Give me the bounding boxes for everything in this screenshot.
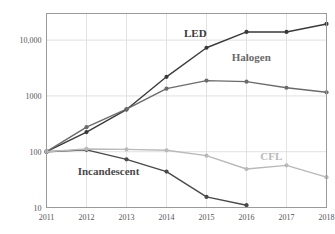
x-tick-label-2016: 2016 bbox=[239, 213, 255, 222]
x-tick-label-2013: 2013 bbox=[119, 213, 135, 222]
x-tick-label-2017: 2017 bbox=[279, 213, 295, 222]
x-tick-label-2014: 2014 bbox=[159, 213, 175, 222]
data-point-led-1 bbox=[84, 130, 88, 134]
data-point-halogen-1 bbox=[84, 125, 88, 129]
series-label-cfl: CFL bbox=[260, 150, 282, 162]
data-point-cfl-2 bbox=[124, 147, 128, 151]
data-point-halogen-3 bbox=[164, 87, 168, 91]
x-tick-label-2015: 2015 bbox=[199, 213, 215, 222]
data-point-halogen-4 bbox=[204, 79, 208, 83]
series-label-incandescent: Incandescent bbox=[78, 165, 140, 177]
plot-frame bbox=[47, 14, 327, 208]
grid-layer bbox=[47, 14, 327, 208]
data-point-cfl-1 bbox=[84, 147, 88, 151]
data-point-led-3 bbox=[164, 75, 168, 79]
series-line-halogen bbox=[47, 81, 327, 152]
line-chart: LEDHalogenIncandescentCFL 10100100010,00… bbox=[0, 0, 335, 234]
data-point-cfl-4 bbox=[204, 154, 208, 158]
data-point-led-5 bbox=[244, 30, 248, 34]
data-point-halogen-6 bbox=[284, 86, 288, 90]
axis-layer: 10100100010,0002011201220132014201520162… bbox=[20, 36, 335, 221]
x-tick-label-2011: 2011 bbox=[39, 213, 55, 222]
x-tick-label-2018: 2018 bbox=[319, 213, 335, 222]
data-point-cfl-5 bbox=[244, 167, 248, 171]
x-tick-label-2012: 2012 bbox=[79, 213, 95, 222]
data-point-cfl-3 bbox=[164, 148, 168, 152]
data-point-led-6 bbox=[284, 30, 288, 34]
chart-canvas: LEDHalogenIncandescentCFL 10100100010,00… bbox=[0, 0, 335, 234]
data-point-incandescent-5 bbox=[244, 203, 248, 207]
series-label-led: LED bbox=[184, 27, 207, 39]
y-tick-label-100: 100 bbox=[30, 148, 42, 157]
data-point-incandescent-4 bbox=[204, 195, 208, 199]
data-point-incandescent-2 bbox=[124, 157, 128, 161]
y-tick-label-10: 10 bbox=[34, 204, 42, 213]
y-tick-label-1000: 1000 bbox=[26, 92, 42, 101]
series-line-incandescent bbox=[47, 150, 247, 205]
data-point-halogen-5 bbox=[244, 80, 248, 84]
y-tick-label-10,000: 10,000 bbox=[20, 36, 42, 45]
data-point-cfl-6 bbox=[284, 163, 288, 167]
data-point-led-4 bbox=[204, 46, 208, 50]
series-layer bbox=[44, 22, 328, 207]
chart-screenshot: LEDHalogenIncandescentCFL 10100100010,00… bbox=[0, 0, 335, 234]
data-point-incandescent-3 bbox=[164, 170, 168, 174]
data-point-halogen-2 bbox=[124, 107, 128, 111]
series-label-halogen: Halogen bbox=[232, 51, 271, 63]
